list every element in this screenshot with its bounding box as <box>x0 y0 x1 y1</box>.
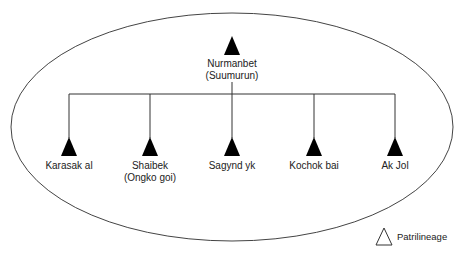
child-node-label: Karasak al <box>45 160 92 172</box>
child-name: Shaibek <box>124 160 176 172</box>
child-name: Karasak al <box>45 160 92 172</box>
child-node-label: Sagynd yk <box>209 160 256 172</box>
root-node-label: Nurmanbet (Suumurun) <box>206 58 259 82</box>
root-name: Nurmanbet <box>206 58 259 70</box>
legend-patrilineage-triangle-icon <box>376 228 392 245</box>
child-node-label: Ak Jol <box>381 160 408 172</box>
child-triangle-icon <box>387 137 403 156</box>
root-triangle-icon <box>224 36 240 55</box>
child-triangle-icon <box>61 137 77 156</box>
child-node-label: Shaibek (Ongko goi) <box>124 160 176 184</box>
child-triangle-icon <box>142 137 158 156</box>
child-triangle-icon <box>224 137 240 156</box>
child-triangle-icon <box>306 137 322 156</box>
child-node-label: Kochok bai <box>289 160 338 172</box>
child-name: Ak Jol <box>381 160 408 172</box>
kinship-diagram <box>0 0 460 257</box>
root-alias: (Suumurun) <box>206 70 259 82</box>
child-name: Sagynd yk <box>209 160 256 172</box>
child-alias: (Ongko goi) <box>124 172 176 184</box>
child-name: Kochok bai <box>289 160 338 172</box>
legend-label: Patrilineage <box>397 231 447 242</box>
